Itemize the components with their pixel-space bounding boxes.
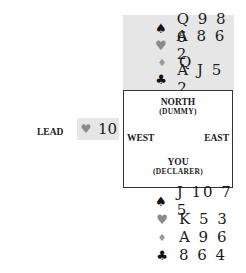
south-clubs-cards: 8 6 4 [179, 246, 227, 264]
south-position: YOU (DECLARER) [124, 157, 232, 176]
north-hearts-row: ♥ A 8 6 2 [155, 36, 234, 54]
south-diamonds-cards: A 9 6 [179, 228, 228, 246]
heart-icon: ♥ [155, 38, 167, 53]
south-hearts-cards: K 5 3 [179, 210, 229, 228]
north-label: NORTH [124, 97, 232, 107]
spade-icon: ♠ [155, 21, 167, 36]
bridge-table: NORTH (DUMMY) WEST EAST YOU (DECLARER) [123, 90, 233, 188]
west-label: WEST [127, 133, 154, 143]
diamond-icon: ♦ [155, 232, 169, 243]
south-diamonds-row: ♦ A 9 6 [155, 228, 228, 246]
diamond-icon: ♦ [155, 57, 169, 68]
lead-card: ♥ 10 [77, 118, 119, 140]
north-hand: ♠ Q 9 8 6 ♥ A 8 6 2 ♦ Q ♣ A J 5 2 [123, 15, 234, 90]
north-position: NORTH (DUMMY) [124, 97, 232, 116]
heart-icon: ♥ [155, 212, 169, 227]
heart-icon: ♥ [79, 122, 93, 136]
south-spades-row: ♠ J 10 7 5 [155, 192, 234, 210]
south-sub-label: (DECLARER) [124, 167, 232, 176]
north-sub-label: (DUMMY) [124, 107, 232, 116]
club-icon: ♣ [155, 72, 167, 87]
south-hand: ♠ J 10 7 5 ♥ K 5 3 ♦ A 9 6 ♣ 8 6 4 [123, 190, 234, 270]
south-clubs-row: ♣ 8 6 4 [155, 246, 227, 264]
lead-label: LEAD [37, 127, 63, 137]
south-label: YOU [124, 157, 232, 167]
spade-icon: ♠ [155, 194, 167, 209]
south-hearts-row: ♥ K 5 3 [155, 210, 229, 228]
club-icon: ♣ [155, 248, 169, 263]
lead-card-rank: 10 [98, 120, 117, 138]
north-clubs-row: ♣ A J 5 2 [155, 70, 234, 88]
east-label: EAST [204, 133, 229, 143]
